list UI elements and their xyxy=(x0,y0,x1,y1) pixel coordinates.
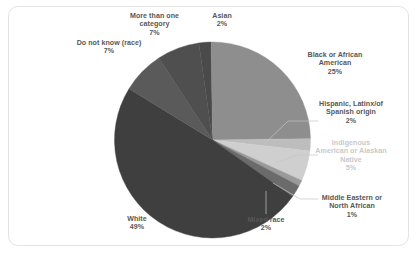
label-more-than-one-category: More than one category 7% xyxy=(107,12,202,37)
label-mixed-race: Mixed race 2% xyxy=(235,216,297,233)
label-hispanic-latinx: Hispanic, Latinx/of Spanish origin 2% xyxy=(297,100,405,125)
label-do-not-know-race: Do not know (race) 7% xyxy=(54,39,164,56)
label-indigenous-american: Indigenous American or Alaskan Native 5% xyxy=(295,139,407,173)
label-black-or-african-american: Black or African American 25% xyxy=(285,51,385,76)
label-white: White 49% xyxy=(112,215,162,232)
pie-slices xyxy=(115,42,311,238)
label-middle-eastern-north-african: Middle Eastern or North African 1% xyxy=(302,194,402,219)
label-asian: Asian 2% xyxy=(198,12,246,29)
